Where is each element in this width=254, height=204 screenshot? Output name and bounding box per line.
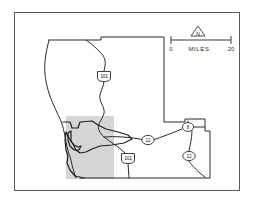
scale-max-label: 20 (228, 46, 235, 52)
map-canvas: 101 101 12 8 12 0 20 MILES (0, 0, 254, 204)
route-shield-101-south[interactable]: 101 (122, 154, 135, 164)
route-shield-label: 101 (100, 73, 108, 79)
route-shield-label: 12 (145, 138, 151, 143)
route-shield-8-east[interactable]: 8 (182, 123, 193, 132)
scale-unit-label: MILES (188, 46, 209, 52)
route-shield-label: 12 (186, 154, 192, 159)
route-shield-label: 101 (124, 155, 132, 161)
route-shield-12-central[interactable]: 12 (142, 135, 154, 144)
route-shield-101-north[interactable]: 101 (98, 72, 111, 82)
north-label: N (196, 31, 200, 37)
route-shield-label: 8 (187, 125, 190, 130)
map-figure: 101 101 12 8 12 0 20 MILES (0, 0, 254, 204)
route-shield-12-southeast[interactable]: 12 (183, 151, 195, 160)
